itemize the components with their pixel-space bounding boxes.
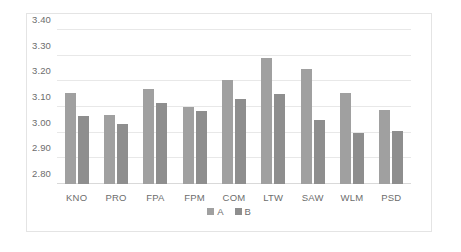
bar-group-com: COM xyxy=(214,30,253,184)
chart-container: 3.403.303.203.103.002.902.80 KNOPROFPAFP… xyxy=(26,13,432,232)
bar-group-fpm: FPM xyxy=(175,30,214,184)
bar-group-fpa: FPA xyxy=(136,30,175,184)
bar-com-a[interactable] xyxy=(222,80,233,184)
bar-ltw-a[interactable] xyxy=(261,58,272,184)
legend-swatch-icon xyxy=(207,208,214,215)
y-axis-tick-label: 2.90 xyxy=(32,142,51,153)
bar-group-pro: PRO xyxy=(96,30,135,184)
bar-com-b[interactable] xyxy=(235,99,246,184)
legend-label: A xyxy=(217,206,223,217)
bar-fpa-b[interactable] xyxy=(156,103,167,184)
x-axis-tick-label-pro: PRO xyxy=(96,192,135,203)
bar-group-psd: PSD xyxy=(372,30,411,184)
bar-group-ltw: LTW xyxy=(254,30,293,184)
x-axis-tick-label-ltw: LTW xyxy=(254,192,293,203)
y-axis-tick-label: 3.00 xyxy=(32,116,51,127)
y-axis-tick-label: 3.40 xyxy=(32,14,51,25)
legend-item-b[interactable]: B xyxy=(235,206,251,217)
bar-group-saw: SAW xyxy=(293,30,332,184)
bar-kno-b[interactable] xyxy=(78,116,89,184)
bar-saw-b[interactable] xyxy=(314,120,325,184)
legend-item-a[interactable]: A xyxy=(207,206,223,217)
x-axis-tick-label-fpm: FPM xyxy=(175,192,214,203)
bar-series-group: KNOPROFPAFPMCOMLTWSAWWLMPSD xyxy=(57,30,411,184)
bar-group-kno: KNO xyxy=(57,30,96,184)
legend-label: B xyxy=(245,206,251,217)
bar-group-wlm: WLM xyxy=(332,30,371,184)
bar-psd-b[interactable] xyxy=(392,131,403,184)
bar-ltw-b[interactable] xyxy=(274,94,285,184)
plot-area: 3.403.303.203.103.002.902.80 KNOPROFPAFP… xyxy=(57,30,411,184)
bar-psd-a[interactable] xyxy=(379,110,390,184)
bar-saw-a[interactable] xyxy=(301,69,312,185)
bar-kno-a[interactable] xyxy=(65,93,76,184)
chart-legend: AB xyxy=(27,206,431,217)
x-axis-tick-label-saw: SAW xyxy=(293,192,332,203)
bar-wlm-b[interactable] xyxy=(353,133,364,184)
bar-fpm-b[interactable] xyxy=(196,111,207,184)
x-axis-tick-label-fpa: FPA xyxy=(136,192,175,203)
x-axis-tick-label-kno: KNO xyxy=(57,192,96,203)
y-axis-tick-label: 3.20 xyxy=(32,65,51,76)
y-axis-tick-label: 3.10 xyxy=(32,91,51,102)
y-axis-tick-label: 2.80 xyxy=(32,168,51,179)
bar-fpm-a[interactable] xyxy=(183,107,194,184)
y-axis-tick-label: 3.30 xyxy=(32,39,51,50)
x-axis-tick-label-wlm: WLM xyxy=(332,192,371,203)
bar-pro-b[interactable] xyxy=(117,124,128,184)
x-axis-tick-label-com: COM xyxy=(214,192,253,203)
legend-swatch-icon xyxy=(235,208,242,215)
bar-pro-a[interactable] xyxy=(104,115,115,184)
bar-fpa-a[interactable] xyxy=(143,89,154,184)
bar-wlm-a[interactable] xyxy=(340,93,351,184)
x-axis-tick-label-psd: PSD xyxy=(372,192,411,203)
